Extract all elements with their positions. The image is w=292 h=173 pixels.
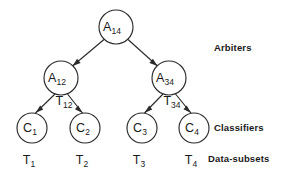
edge-label-left-subscript: 12: [63, 100, 73, 110]
arrowhead-icon: [75, 106, 83, 113]
node-classifier-2-subscript: 2: [85, 127, 90, 137]
row-label-classifiers: Classifiers: [214, 122, 264, 133]
svg-text:T12: T12: [55, 94, 72, 110]
data-subset-label-1: T1: [23, 153, 36, 169]
edge-label-right-subscript: 34: [171, 100, 181, 110]
edge-arbiter-right-to-classifier-3: [145, 94, 164, 113]
node-classifier-1-subscript: 1: [32, 127, 37, 137]
diagram-canvas: A14 A12 A34 C1 C2: [0, 0, 292, 173]
node-arbiter-root[interactable]: A14: [99, 10, 133, 44]
node-classifier-1-base: C: [23, 121, 32, 135]
node-classifier-4-subscript: 4: [194, 127, 199, 137]
data-subset-2-subscript: 2: [83, 159, 88, 169]
node-classifier-1[interactable]: C1: [17, 113, 47, 143]
edge-root-to-arbiter-left: [73, 40, 105, 67]
data-subset-1-subscript: 1: [30, 159, 35, 169]
data-subset-label-2: T2: [76, 153, 89, 169]
node-arbiter-right[interactable]: A34: [152, 61, 186, 95]
node-root-subscript: 14: [111, 26, 121, 36]
arbiter-tree-graphic: A14 A12 A34 C1 C2: [0, 0, 292, 173]
node-classifier-3-subscript: 3: [142, 127, 147, 137]
edge-label-left-arbiter-trainingset: T12: [55, 94, 72, 110]
edge-root-to-arbiter-right: [128, 40, 158, 67]
svg-text:T1: T1: [23, 153, 36, 169]
data-subset-label-3: T3: [133, 153, 146, 169]
data-subset-4-subscript: 4: [192, 159, 197, 169]
svg-text:T4: T4: [185, 153, 198, 169]
node-classifier-4[interactable]: C4: [179, 113, 209, 143]
data-subset-label-4: T4: [185, 153, 198, 169]
node-classifier-3-base: C: [133, 121, 142, 135]
edge-arbiter-left-to-classifier-1: [36, 94, 56, 113]
row-label-arbiters: Arbiters: [214, 42, 252, 53]
edge-label-right-arbiter-trainingset: T34: [163, 94, 180, 110]
row-label-data-subsets: Data-subsets: [208, 153, 269, 164]
node-arbiter-left-subscript: 12: [56, 77, 66, 87]
node-arbiter-left[interactable]: A12: [44, 61, 78, 95]
node-classifier-2-base: C: [76, 121, 85, 135]
node-arbiter-right-subscript: 34: [164, 77, 174, 87]
arrowhead-icon: [184, 106, 192, 113]
node-classifier-2[interactable]: C2: [70, 113, 100, 143]
svg-text:T34: T34: [163, 94, 180, 110]
svg-text:T2: T2: [76, 153, 89, 169]
svg-text:T3: T3: [133, 153, 146, 169]
node-classifier-4-base: C: [185, 121, 194, 135]
node-classifier-3[interactable]: C3: [127, 113, 157, 143]
data-subset-3-subscript: 3: [140, 159, 145, 169]
